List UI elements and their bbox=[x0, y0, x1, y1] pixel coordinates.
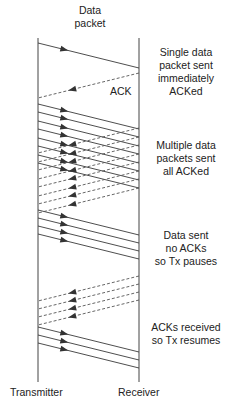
annotation-line: immediately bbox=[146, 72, 226, 85]
data-packet-label: Data packet bbox=[70, 4, 110, 30]
data-packet-arrow bbox=[38, 327, 139, 352]
arrowhead-icon bbox=[68, 175, 76, 181]
annotation-multiple: Multiple data packets sent all ACKed bbox=[146, 139, 226, 178]
annotation-line: ACKs received bbox=[146, 321, 226, 334]
arrowhead-icon bbox=[60, 115, 68, 121]
annotation-line: Multiple data bbox=[146, 139, 226, 152]
data-packet-arrow bbox=[38, 218, 139, 243]
arrowhead-icon bbox=[60, 149, 68, 155]
ack-arrows bbox=[38, 73, 139, 325]
arrowhead-icon bbox=[60, 229, 68, 235]
arrowhead-icon bbox=[60, 330, 68, 336]
arrowhead-icon bbox=[60, 346, 68, 352]
arrowhead-icon bbox=[68, 141, 76, 147]
arrowhead-icon bbox=[68, 313, 76, 319]
arrowhead-icon bbox=[68, 158, 76, 164]
arrowhead-icon bbox=[68, 150, 76, 156]
receiver-label: Receiver bbox=[118, 386, 159, 399]
annotation-pause: Data sent no ACKs so Tx pauses bbox=[146, 229, 226, 268]
ack-arrow bbox=[38, 276, 139, 301]
annotation-single: Single data packet sent immediately ACKe… bbox=[146, 46, 226, 98]
data-packet-arrow bbox=[38, 335, 139, 360]
annotation-line: Data sent bbox=[146, 229, 226, 242]
annotation-line: packets sent bbox=[146, 152, 226, 165]
arrowhead-icon bbox=[60, 141, 68, 147]
data-packet-arrow bbox=[38, 43, 139, 68]
annotation-line: no ACKs bbox=[146, 242, 226, 255]
arrowhead-icon bbox=[60, 132, 68, 138]
arrowhead-icon bbox=[60, 46, 68, 52]
arrowhead-icon bbox=[68, 289, 76, 295]
annotation-line: so Tx resumes bbox=[146, 334, 226, 347]
annotation-line: so Tx pauses bbox=[146, 255, 226, 268]
data-packet-label-line2: packet bbox=[70, 17, 110, 30]
annotation-line: packet sent bbox=[146, 59, 226, 72]
arrowhead-icon bbox=[68, 167, 76, 173]
data-packet-arrow bbox=[38, 104, 139, 129]
arrowhead-icon bbox=[68, 201, 76, 207]
data-packet-label-line1: Data bbox=[70, 4, 110, 17]
ack-label: ACK bbox=[110, 85, 132, 98]
ack-arrow bbox=[38, 300, 139, 325]
arrowhead-icon bbox=[68, 305, 76, 311]
transmitter-label: Transmitter bbox=[10, 386, 63, 399]
arrowhead-icon bbox=[60, 124, 68, 130]
arrowhead-icon bbox=[68, 297, 76, 303]
arrowhead-icon bbox=[60, 237, 68, 243]
arrowhead-icon bbox=[60, 221, 68, 227]
arrowhead-icon bbox=[60, 166, 68, 172]
arrowhead-icon bbox=[68, 86, 76, 92]
arrowhead-icon bbox=[68, 184, 76, 190]
arrowhead-icon bbox=[60, 107, 68, 113]
data-packet-arrow bbox=[38, 234, 139, 259]
data-packet-arrow bbox=[38, 226, 139, 251]
annotation-line: Single data bbox=[146, 46, 226, 59]
arrowhead-icon bbox=[60, 213, 68, 219]
annotation-resume: ACKs received so Tx resumes bbox=[146, 321, 226, 347]
ack-arrow bbox=[38, 284, 139, 309]
arrowhead-icon bbox=[60, 158, 68, 164]
ack-arrow bbox=[38, 292, 139, 317]
annotation-line: ACKed bbox=[146, 85, 226, 98]
data-packet-arrow bbox=[38, 210, 139, 235]
data-packet-arrow bbox=[38, 343, 139, 368]
annotation-line: all ACKed bbox=[146, 165, 226, 178]
arrowhead-icon bbox=[60, 338, 68, 344]
arrowhead-icon bbox=[68, 192, 76, 198]
